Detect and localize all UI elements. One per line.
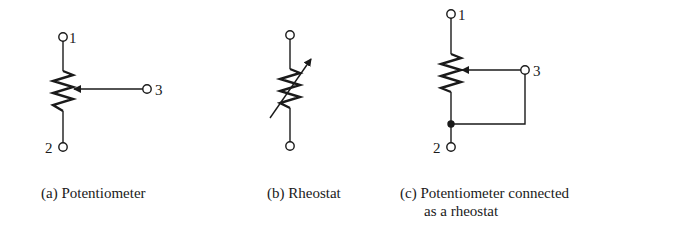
caption-potentiometer: (a) Potentiometer [41, 184, 146, 202]
terminal-2-icon [447, 143, 455, 151]
resistor-zigzag-icon [441, 54, 461, 92]
potentiometer-as-rheostat-symbol [441, 10, 529, 151]
terminal-bottom-icon [286, 142, 294, 150]
terminal-1-icon [447, 10, 455, 18]
terminal-2-label: 2 [45, 141, 53, 156]
terminal-3-label: 3 [533, 64, 541, 79]
terminal-2-label: 2 [433, 141, 441, 156]
caption-potentiometer-as-rheostat-line2: as a rheostat [424, 202, 498, 220]
terminal-top-icon [286, 31, 294, 39]
terminal-2-icon [59, 143, 67, 151]
resistor-zigzag-icon [53, 71, 73, 111]
rheostat-symbol [270, 31, 311, 150]
terminal-1-icon [59, 33, 67, 41]
potentiometer-symbol [53, 33, 151, 151]
terminal-3-icon [143, 85, 151, 93]
terminal-1-label: 1 [458, 8, 466, 23]
caption-potentiometer-as-rheostat-line1: (c) Potentiometer connected [400, 184, 569, 202]
terminal-3-icon [521, 66, 529, 74]
caption-rheostat: (b) Rheostat [267, 184, 341, 202]
terminal-3-label: 3 [155, 83, 163, 98]
terminal-1-label: 1 [69, 31, 77, 46]
junction-dot-icon [448, 121, 454, 127]
